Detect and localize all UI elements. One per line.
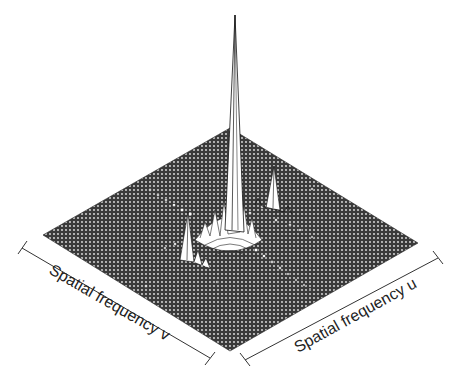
spectrum-plot: Spatial frequency v Spatial frequency u: [0, 0, 454, 378]
